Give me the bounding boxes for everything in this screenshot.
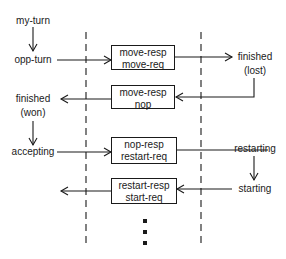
state-restarting: restarting (228, 143, 282, 155)
message-line-1: nop-resp (112, 139, 176, 151)
message-line-1: restart-resp (112, 180, 176, 192)
message-box-nop: move-resp nop (111, 85, 175, 109)
continuation-dots (143, 219, 147, 245)
message-line-2: move-req (112, 59, 174, 71)
state-opp-turn: opp-turn (8, 54, 58, 66)
state-finished-lost-qualifier: (lost) (230, 65, 280, 77)
message-line-2: restart-req (112, 151, 176, 163)
arrow-finished-lost-to-nop (176, 78, 254, 97)
state-accepting: accepting (6, 146, 60, 158)
state-my-turn: my-turn (8, 15, 58, 27)
state-finished-lost: finished (230, 51, 280, 63)
state-finished-won: finished (8, 93, 58, 105)
message-box-move-req: move-resp move-req (111, 45, 175, 70)
state-finished-won-qualifier: (won) (8, 107, 58, 119)
message-line-1: move-resp (112, 87, 174, 99)
message-line-2: nop (112, 99, 174, 111)
message-box-start-req: restart-resp start-req (111, 178, 177, 204)
message-line-2: start-req (112, 192, 176, 204)
message-line-1: move-resp (112, 47, 174, 59)
protocol-diagram: my-turn opp-turn finished (won) acceptin… (0, 0, 286, 259)
diagram-lines (0, 0, 286, 259)
message-box-restart-req: nop-resp restart-req (111, 137, 177, 164)
state-starting: starting (230, 183, 280, 195)
